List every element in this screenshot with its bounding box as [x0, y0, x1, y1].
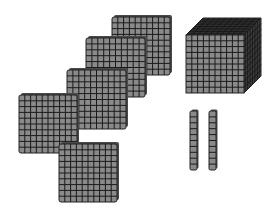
ten-rod-1: [190, 110, 199, 171]
thousand-cube: [186, 18, 261, 93]
ten-rod-2: [209, 110, 218, 171]
base-ten-blocks-diagram: [0, 0, 275, 216]
hundred-flat-5: [59, 142, 119, 202]
